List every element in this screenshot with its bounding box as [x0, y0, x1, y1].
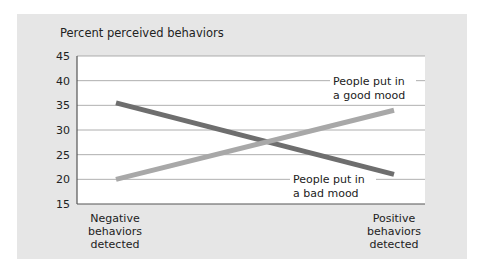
annotation-good-mood: People put ina good mood [333, 75, 405, 102]
y-tick-label: 40 [56, 75, 70, 88]
line-chart: 15202530354045 Percent perceived behavio… [0, 0, 504, 268]
x-category-negative: Negativebehaviorsdetected [88, 212, 142, 251]
y-tick-label: 30 [56, 124, 70, 137]
x-category-positive: Positivebehaviorsdetected [367, 212, 421, 251]
y-tick-label: 45 [56, 50, 70, 63]
y-tick-label: 25 [56, 149, 70, 162]
y-tick-label: 35 [56, 99, 70, 112]
annotation-bad-mood: People put ina bad mood [293, 173, 365, 200]
y-axis-title: Percent perceived behaviors [60, 26, 224, 40]
y-tick-label: 15 [56, 198, 70, 211]
y-tick-label: 20 [56, 173, 70, 186]
